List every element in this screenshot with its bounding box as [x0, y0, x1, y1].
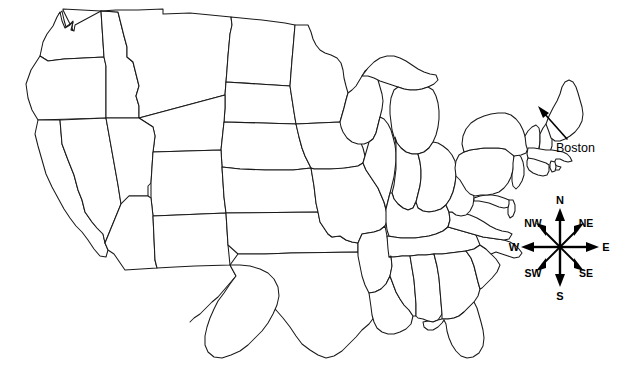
compass-rose[interactable]: N NE E SE S SW W NW	[509, 194, 610, 302]
compass-head-north	[555, 208, 565, 221]
compass-label-northeast: NE	[579, 217, 594, 229]
state-delaware[interactable]	[508, 200, 515, 218]
compass-label-north: N	[556, 194, 564, 206]
state-colorado[interactable]	[151, 150, 226, 216]
state-south-dakota[interactable]	[224, 82, 296, 124]
state-outlines	[26, 9, 583, 358]
map-page: Boston N NE E SE	[0, 0, 618, 365]
state-new-mexico[interactable]	[153, 213, 230, 268]
state-rhode-island[interactable]	[550, 161, 556, 172]
compass-head-east	[586, 242, 599, 252]
state-texas-west[interactable]	[205, 265, 279, 358]
compass-head-south	[555, 274, 565, 287]
compass-label-northwest: NW	[524, 217, 542, 229]
compass-label-south: S	[556, 290, 563, 302]
compass-label-west: W	[509, 241, 520, 253]
state-oregon[interactable]	[26, 56, 106, 120]
boston-label: Boston	[556, 141, 595, 155]
us-map[interactable]: Boston N NE E SE	[0, 0, 618, 365]
state-maryland[interactable]	[474, 195, 512, 208]
state-maine[interactable]	[546, 80, 583, 141]
compass-label-east: E	[602, 241, 609, 253]
state-new-jersey[interactable]	[512, 154, 524, 189]
state-kansas[interactable]	[222, 167, 318, 213]
state-north-dakota[interactable]	[226, 17, 295, 86]
compass-label-southeast: SE	[579, 267, 593, 279]
compass-label-southwest: SW	[525, 267, 542, 279]
compass-head-west	[521, 242, 534, 252]
state-minnesota[interactable]	[290, 25, 348, 124]
